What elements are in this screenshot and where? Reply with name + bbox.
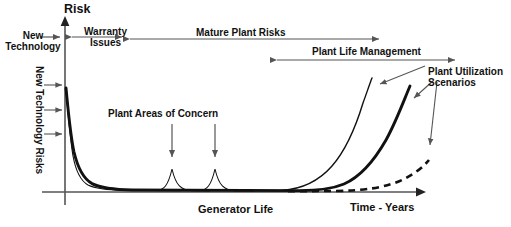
label-plant-life-management: Plant Life Management [312, 46, 421, 57]
axis-y-label: Risk [64, 2, 90, 16]
label-warranty-issues-line2: Issues [84, 37, 127, 48]
curve-spike-1 [156, 169, 210, 191]
risk-vs-time-diagram: Risk New Technology Warranty Issues Matu… [0, 0, 511, 227]
label-plant-utilization-scenarios: Plant Utilization Scenarios [428, 66, 503, 88]
curve-spike-2 [199, 169, 254, 191]
label-new-technology-line2: Technology [1, 41, 65, 52]
label-new-technology: New Technology [1, 30, 65, 52]
annotation-new-technology-risks-arrows [44, 85, 62, 134]
axis-x-label-generator-life: Generator Life [198, 203, 273, 215]
annotation-plant-areas-of-concern-arrows [172, 124, 215, 157]
curve-bathtub-thick [66, 86, 410, 191]
label-mature-plant-risks: Mature Plant Risks [196, 27, 285, 38]
label-warranty-issues-line1: Warranty [84, 26, 127, 37]
label-warranty-issues: Warranty Issues [84, 26, 127, 48]
label-plant-utilization-line2: Scenarios [428, 77, 503, 88]
label-new-technology-risks: New Technology Risks [31, 66, 45, 174]
label-new-technology-line1: New [1, 30, 65, 41]
label-plant-areas-of-concern: Plant Areas of Concern [108, 108, 218, 119]
label-plant-utilization-line1: Plant Utilization [428, 66, 503, 77]
axis-x-label-time-years: Time - Years [350, 201, 414, 213]
